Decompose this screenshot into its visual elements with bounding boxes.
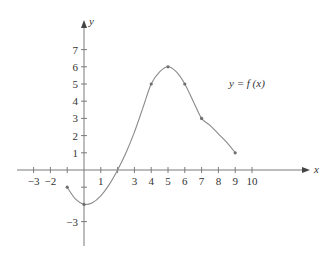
- function-graph: x y −3−21345678910 −31234567 y = f (x): [0, 0, 336, 257]
- x-tick-label: 3: [132, 175, 138, 187]
- x-axis-arrow-icon: [302, 167, 310, 173]
- x-tick-label: 5: [165, 175, 171, 187]
- y-tick-label: 2: [73, 130, 79, 142]
- y-tick-label: −3: [66, 216, 78, 228]
- data-point: [234, 151, 237, 154]
- data-point: [82, 203, 85, 206]
- x-tick-label: 7: [199, 175, 205, 187]
- curve-label: y = f (x): [228, 77, 265, 90]
- y-tick-label: 1: [73, 147, 79, 159]
- data-point: [200, 117, 203, 120]
- x-axis-label: x: [313, 163, 319, 175]
- data-point: [166, 65, 169, 68]
- data-point: [150, 82, 153, 85]
- x-tick-label: 4: [148, 175, 154, 187]
- y-tick-label: 7: [73, 44, 79, 56]
- x-tick-label: 6: [182, 175, 188, 187]
- x-tick-label: 1: [98, 175, 104, 187]
- y-axis-label: y: [88, 15, 94, 27]
- axes: x y: [17, 15, 319, 246]
- data-point: [183, 82, 186, 85]
- x-tick-label: 8: [216, 175, 222, 187]
- x-tick-label: −2: [45, 175, 57, 187]
- x-tick-label: 9: [232, 175, 238, 187]
- y-tick-label: 4: [73, 95, 79, 107]
- y-tick-label: 6: [73, 61, 79, 73]
- y-tick-label: 5: [73, 78, 79, 90]
- x-tick-label: 10: [247, 175, 259, 187]
- x-tick-label: −3: [28, 175, 40, 187]
- y-axis-arrow-icon: [81, 20, 87, 28]
- data-point: [66, 186, 69, 189]
- y-tick-label: 3: [73, 112, 79, 124]
